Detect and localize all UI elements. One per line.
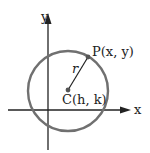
y-axis-label: y: [40, 9, 49, 24]
center-label: C(h, k): [62, 92, 107, 107]
x-axis-label: x: [134, 102, 142, 117]
point-p-label: P(x, y): [92, 44, 134, 59]
radius-label: r: [72, 61, 79, 76]
circle-diagram: y x P(x, y) r C(h, k): [0, 0, 150, 153]
x-axis-arrow-icon: [120, 107, 131, 114]
point-p: [86, 55, 91, 60]
